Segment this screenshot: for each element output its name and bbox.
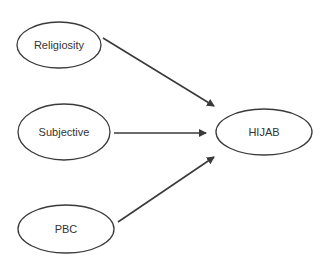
node-hijab: HIJAB (216, 109, 312, 155)
node-label: Subjective (39, 126, 90, 138)
node-religiosity: Religiosity (17, 22, 101, 68)
node-subjective: Subjective (18, 104, 110, 160)
node-label: Religiosity (34, 39, 85, 51)
node-label: HIJAB (248, 126, 279, 138)
node-label: PBC (55, 223, 78, 235)
edge-religiosity-to-hijab (103, 38, 214, 106)
edge-pbc-to-hijab (118, 157, 214, 222)
node-pbc: PBC (18, 205, 114, 253)
path-diagram: Religiosity Subjective PBC HIJAB (0, 0, 328, 265)
